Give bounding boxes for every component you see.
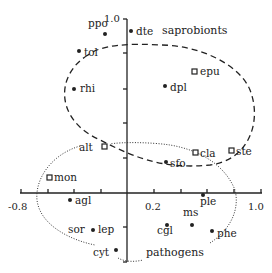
- label-cla: cla: [200, 147, 216, 159]
- point-sor: [91, 228, 95, 232]
- label-ppo: ppo: [88, 17, 108, 29]
- x-tick-label-max: 1.0: [248, 201, 264, 212]
- label-cyt: cyt: [93, 246, 110, 258]
- label-ms: ms: [183, 206, 198, 218]
- label-epu: epu: [200, 65, 220, 77]
- point-ppo: [103, 32, 107, 36]
- label-dpl: dpl: [170, 81, 187, 93]
- point-epu: [192, 69, 197, 74]
- label-mon: mon: [54, 171, 77, 183]
- label-dte: dte: [136, 25, 153, 37]
- point-cla: [193, 150, 198, 155]
- label-sor: sor: [68, 223, 86, 235]
- point-rhi: [72, 87, 76, 91]
- ordination-plot: 1.0 -0.8 0.2 1.0 ppo tol rhi dte dpl epu…: [0, 0, 272, 273]
- label-rhi: rhi: [80, 82, 96, 94]
- saprobionts-outline: [65, 44, 255, 166]
- point-agl: [68, 198, 72, 202]
- x-tick-label-min: -0.8: [8, 201, 27, 212]
- label-alt: alt: [79, 141, 94, 153]
- label-agl: agl: [75, 194, 92, 206]
- point-phe: [210, 229, 214, 233]
- label-lep: lep: [98, 223, 115, 235]
- label-ste: ste: [236, 145, 252, 157]
- point-cyt: [114, 248, 118, 252]
- group-label-pathogens: pathogens: [146, 246, 204, 259]
- square-markers: [47, 69, 234, 180]
- point-sfo: [164, 160, 168, 164]
- label-cgl: cgl: [157, 224, 174, 236]
- point-ms: [190, 223, 194, 227]
- x-tick-label-mid: 0.2: [145, 201, 161, 212]
- label-phe: phe: [217, 227, 237, 239]
- point-tol: [77, 49, 81, 53]
- point-mon: [47, 175, 52, 180]
- label-sfo: sfo: [170, 157, 186, 169]
- point-dte: [129, 29, 133, 33]
- label-tol: tol: [84, 46, 99, 58]
- point-ste: [229, 148, 234, 153]
- axes: [20, 19, 262, 262]
- group-label-saprobionts: saprobionts: [162, 24, 228, 37]
- point-alt: [102, 144, 107, 149]
- point-dpl: [163, 84, 167, 88]
- label-ple: ple: [200, 195, 216, 207]
